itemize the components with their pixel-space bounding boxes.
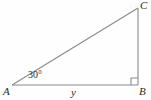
triangle-figure: A B C y 30° <box>0 0 151 100</box>
triangle-drawing <box>0 0 151 100</box>
vertex-label-b: B <box>139 86 146 97</box>
angle-label-30-degrees: 30° <box>28 70 42 80</box>
vertex-label-a: A <box>3 86 10 97</box>
vertex-label-c: C <box>140 0 147 11</box>
right-angle-marker-icon <box>131 78 138 85</box>
side-label-y: y <box>71 87 76 98</box>
